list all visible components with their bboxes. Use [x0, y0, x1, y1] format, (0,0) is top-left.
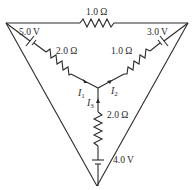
i3-arrow — [96, 98, 100, 103]
i2-arrow — [107, 80, 112, 84]
top-resistor — [80, 19, 114, 27]
left-branch-wire-2 — [34, 43, 46, 52]
top-resistor-label: 1.0 Ω — [86, 7, 107, 17]
left-resistor-label: 2.0 Ω — [56, 46, 77, 56]
circuit-diagram: 1.0 Ω 5.0 V 3.0 V 2.0 Ω 1.0 Ω 2.0 Ω 4.0 … — [0, 0, 194, 190]
current-i3-label: I3 — [86, 97, 94, 110]
i1-arrow — [83, 79, 88, 83]
current-i1-label: I1 — [77, 87, 85, 100]
bottom-resistor — [94, 112, 102, 146]
right-branch-wire-2 — [150, 43, 160, 51]
left-outer-wire — [6, 23, 97, 186]
current-i2-label: I2 — [110, 85, 118, 98]
bottom-battery-label: 4.0 V — [113, 155, 134, 165]
right-resistor-label: 1.0 Ω — [111, 46, 132, 56]
left-battery-label: 5.0 V — [19, 27, 40, 37]
right-battery-label: 3.0 V — [147, 27, 168, 37]
bottom-resistor-label: 2.0 Ω — [107, 110, 128, 120]
